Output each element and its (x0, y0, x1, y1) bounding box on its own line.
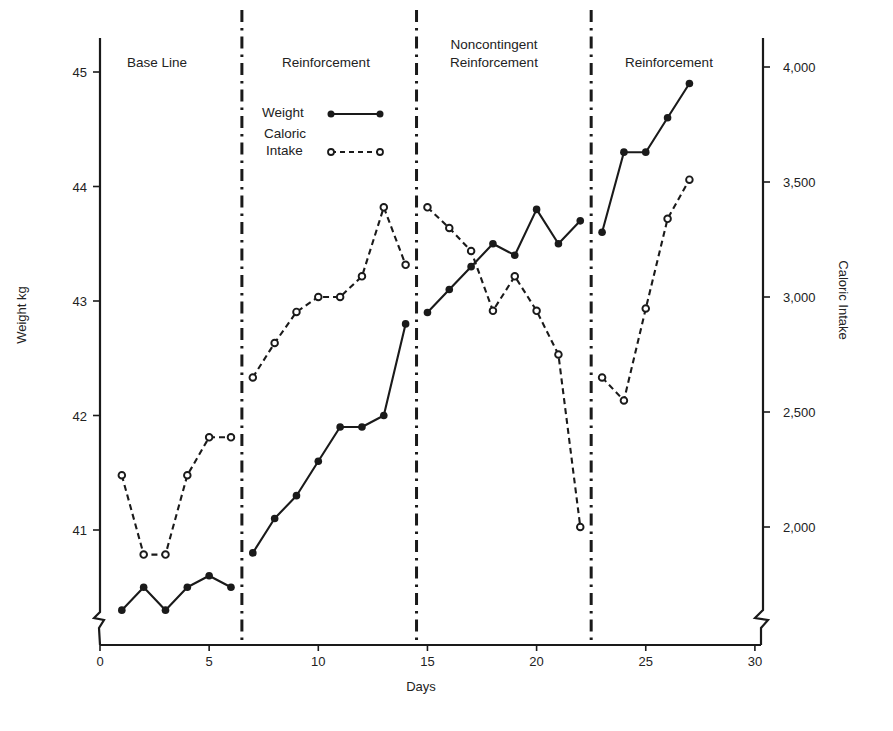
phase-label-reinforcement-2: Reinforcement (625, 55, 713, 70)
legend-caloric-marker-icon (377, 149, 383, 155)
caloric-open-circle-marker-icon (642, 305, 649, 312)
y-tick-label: 41 (73, 523, 87, 538)
weight-filled-circle-marker-icon (271, 515, 279, 523)
weight-filled-circle-marker-icon (205, 572, 213, 580)
weight-filled-circle-marker-icon (467, 263, 475, 271)
y2-tick-label: 3,500 (783, 175, 816, 190)
right-axis-line (755, 38, 768, 645)
phase-label-noncontingent-line2: Reinforcement (450, 55, 538, 70)
weight-filled-circle-marker-icon (293, 492, 301, 500)
weight-filled-circle-marker-icon (511, 251, 519, 259)
weight-filled-circle-marker-icon (315, 458, 323, 466)
chart-figure: 05101520253041424344452,0002,5003,0003,5… (0, 0, 893, 731)
weight-filled-circle-marker-icon (358, 423, 366, 431)
legend-weight-marker-icon (328, 111, 335, 118)
caloric-open-circle-marker-icon (686, 176, 693, 183)
weight-line-segment (602, 84, 689, 233)
caloric-open-circle-marker-icon (621, 397, 628, 404)
y-axis-title: Weight kg (14, 286, 29, 344)
y-tick-label: 42 (73, 409, 87, 424)
caloric-open-circle-marker-icon (511, 273, 518, 280)
weight-filled-circle-marker-icon (598, 229, 606, 237)
weight-filled-circle-marker-icon (184, 583, 192, 591)
x-tick-label: 20 (529, 654, 543, 669)
caloric-open-circle-marker-icon (184, 472, 191, 479)
y-tick-label: 43 (73, 294, 87, 309)
weight-filled-circle-marker-icon (489, 240, 497, 248)
caloric-line-segment (602, 180, 689, 401)
weight-filled-circle-marker-icon (402, 320, 410, 328)
caloric-open-circle-marker-icon (402, 262, 409, 269)
caloric-open-circle-marker-icon (424, 204, 431, 211)
x-tick-label: 5 (206, 654, 213, 669)
y-tick-label: 44 (73, 180, 87, 195)
caloric-open-circle-marker-icon (271, 340, 278, 347)
caloric-open-circle-marker-icon (446, 225, 453, 232)
weight-filled-circle-marker-icon (249, 549, 257, 557)
weight-filled-circle-marker-icon (227, 583, 235, 591)
caloric-open-circle-marker-icon (468, 248, 475, 255)
weight-filled-circle-marker-icon (162, 606, 170, 614)
weight-filled-circle-marker-icon (118, 606, 126, 614)
x-tick-label: 0 (96, 654, 103, 669)
caloric-open-circle-marker-icon (250, 374, 257, 381)
weight-filled-circle-marker-icon (533, 206, 541, 214)
weight-line-segment (122, 576, 231, 610)
caloric-intake-series (119, 176, 693, 557)
caloric-open-circle-marker-icon (533, 308, 540, 315)
caloric-open-circle-marker-icon (337, 294, 344, 301)
legend-weight-label: Weight (262, 105, 304, 120)
caloric-line-segment (122, 437, 231, 554)
x-tick-label: 15 (420, 654, 434, 669)
legend: Weight Caloric Intake (262, 105, 384, 158)
x-axis-title: Days (406, 679, 436, 694)
phase-label-reinforcement-1: Reinforcement (282, 55, 370, 70)
phase-label-baseline: Base Line (127, 55, 187, 70)
y2-axis-title: Caloric Intake (836, 260, 851, 339)
axes: 05101520253041424344452,0002,5003,0003,5… (73, 38, 816, 669)
weight-filled-circle-marker-icon (664, 114, 672, 122)
caloric-open-circle-marker-icon (140, 551, 147, 558)
caloric-open-circle-marker-icon (664, 216, 671, 223)
y2-tick-label: 2,500 (783, 405, 816, 420)
weight-filled-circle-marker-icon (380, 412, 388, 420)
caloric-line-segment (253, 207, 406, 377)
left-axis-line (94, 38, 104, 645)
weight-filled-circle-marker-icon (686, 80, 694, 88)
caloric-open-circle-marker-icon (162, 551, 169, 558)
weight-filled-circle-marker-icon (576, 217, 584, 225)
caloric-open-circle-marker-icon (380, 204, 387, 211)
caloric-open-circle-marker-icon (577, 524, 584, 531)
caloric-open-circle-marker-icon (206, 434, 213, 441)
weight-filled-circle-marker-icon (140, 583, 148, 591)
x-tick-label: 10 (311, 654, 325, 669)
y-tick-label: 45 (73, 65, 87, 80)
caloric-open-circle-marker-icon (555, 351, 562, 358)
caloric-open-circle-marker-icon (119, 472, 126, 479)
caloric-open-circle-marker-icon (599, 374, 606, 381)
weight-filled-circle-marker-icon (555, 240, 563, 248)
caloric-open-circle-marker-icon (315, 294, 322, 301)
y2-tick-label: 3,000 (783, 290, 816, 305)
legend-caloric-label-line1: Caloric (264, 126, 306, 141)
weight-filled-circle-marker-icon (620, 148, 628, 156)
legend-weight-marker-icon (377, 111, 384, 118)
y2-tick-label: 2,000 (783, 520, 816, 535)
legend-caloric-marker-icon (328, 149, 334, 155)
caloric-open-circle-marker-icon (228, 434, 235, 441)
caloric-open-circle-marker-icon (490, 308, 497, 315)
weight-series (118, 80, 693, 614)
weight-filled-circle-marker-icon (642, 148, 650, 156)
caloric-line-segment (427, 207, 580, 527)
caloric-open-circle-marker-icon (359, 273, 366, 280)
y2-tick-label: 4,000 (783, 60, 816, 75)
weight-filled-circle-marker-icon (424, 309, 432, 317)
legend-caloric-label-line2: Intake (266, 143, 303, 158)
x-tick-label: 30 (748, 654, 762, 669)
caloric-open-circle-marker-icon (293, 309, 300, 316)
weight-filled-circle-marker-icon (445, 286, 453, 294)
x-tick-label: 25 (639, 654, 653, 669)
weight-filled-circle-marker-icon (336, 423, 344, 431)
phase-label-noncontingent-line1: Noncontingent (450, 37, 537, 52)
